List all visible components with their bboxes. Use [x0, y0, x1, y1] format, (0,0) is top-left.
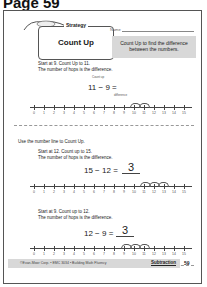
tick-label: 1 — [43, 252, 45, 256]
tick-mark — [134, 105, 135, 110]
tick-label: 3 — [63, 252, 65, 256]
tick-label: 10 — [132, 190, 136, 194]
tick-mark — [184, 105, 185, 110]
tick-mark — [104, 246, 105, 251]
tick-mark — [154, 105, 155, 110]
tick-label: 10 — [132, 111, 136, 115]
tick-mark — [164, 246, 165, 251]
tick-label: 5 — [83, 252, 85, 256]
tick-label: 1 — [43, 111, 45, 115]
tick-mark — [64, 105, 65, 110]
problem-1-instruction-2: The number of hops is the difference. — [38, 155, 112, 161]
tick-label: 11 — [142, 111, 146, 115]
tick-label: 5 — [83, 190, 85, 194]
tick-label: 9 — [123, 252, 125, 256]
copyright: ©Evan-Moor Corp. • EMC 3034 • Building M… — [20, 261, 107, 265]
tick-label: 3 — [63, 111, 65, 115]
tick-mark — [184, 246, 185, 251]
tick-label: 14 — [172, 252, 176, 256]
problem-2-answer[interactable]: 3 — [116, 224, 134, 237]
tick-label: 15 — [182, 252, 186, 256]
problem-1-answer[interactable]: 3 — [122, 161, 140, 174]
tick-label: 5 — [83, 111, 85, 115]
tick-mark — [44, 184, 45, 189]
tick-label: 6 — [93, 252, 95, 256]
tick-label: 15 — [182, 111, 186, 115]
name-field[interactable] — [122, 31, 194, 32]
tick-mark — [34, 246, 35, 251]
tick-mark — [54, 184, 55, 189]
tick-mark — [84, 246, 85, 251]
problem-1-equation: 15 − 12 = — [84, 166, 118, 175]
tick-label: 11 — [142, 190, 146, 194]
tick-mark — [104, 105, 105, 110]
tick-mark — [34, 105, 35, 110]
tick-mark — [124, 105, 125, 110]
tick-label: 2 — [53, 111, 55, 115]
example-instruction-2: The number of hops is the difference. — [38, 67, 112, 73]
tick-mark — [84, 184, 85, 189]
tick-mark — [74, 184, 75, 189]
tick-mark — [54, 105, 55, 110]
tick-label: 13 — [162, 111, 166, 115]
difference-annotation: difference — [114, 93, 127, 97]
tick-label: 10 — [132, 252, 136, 256]
tick-mark — [144, 105, 145, 110]
tick-mark — [144, 184, 145, 189]
number-line-example: 0123456789101112131415 — [30, 104, 192, 118]
tick-mark — [154, 184, 155, 189]
tick-label: 9 — [123, 111, 125, 115]
tick-label: 13 — [162, 190, 166, 194]
tick-label: 9 — [123, 190, 125, 194]
strategy-box: Count Up — [38, 26, 114, 60]
tick-label: 0 — [33, 252, 35, 256]
tick-mark — [44, 105, 45, 110]
tick-label: 4 — [73, 252, 75, 256]
tick-mark — [104, 184, 105, 189]
tick-mark — [114, 184, 115, 189]
tick-mark — [174, 246, 175, 251]
tick-mark — [164, 184, 165, 189]
number-line-problem-2: 0123456789101112131415 — [30, 245, 192, 259]
strategy-title: Count Up — [39, 38, 113, 47]
tick-mark — [114, 246, 115, 251]
tick-mark — [134, 246, 135, 251]
footer-bar: ©Evan-Moor Corp. • EMC 3034 • Building M… — [8, 259, 180, 268]
use-prompt: Use the number line to Count Up. — [18, 139, 85, 144]
tick-label: 7 — [103, 111, 105, 115]
tick-label: 6 — [93, 111, 95, 115]
tick-label: 4 — [73, 190, 75, 194]
tick-mark — [124, 184, 125, 189]
tick-label: 6 — [93, 190, 95, 194]
example-equation: 11 − 9 = — [88, 83, 117, 92]
tick-label: 12 — [152, 190, 156, 194]
tick-mark — [144, 246, 145, 251]
number-line-problem-1: 0123456789101112131415 — [30, 183, 192, 197]
tick-label: 7 — [103, 190, 105, 194]
tick-label: 4 — [73, 111, 75, 115]
tick-mark — [34, 184, 35, 189]
tick-label: 0 — [33, 190, 35, 194]
tick-label: 0 — [33, 111, 35, 115]
tick-label: 1 — [43, 190, 45, 194]
tick-label: 14 — [172, 190, 176, 194]
tick-mark — [174, 184, 175, 189]
divider — [14, 125, 194, 126]
tick-label: 8 — [113, 190, 115, 194]
tick-mark — [174, 105, 175, 110]
tick-mark — [94, 246, 95, 251]
tick-mark — [84, 105, 85, 110]
tick-mark — [74, 246, 75, 251]
tick-mark — [154, 246, 155, 251]
subject-label: Subtraction — [151, 260, 176, 265]
strategy-tip: Count Up to find the difference between … — [112, 36, 196, 58]
tick-label: 2 — [53, 190, 55, 194]
tick-label: 13 — [162, 252, 166, 256]
tick-mark — [44, 246, 45, 251]
tick-mark — [94, 105, 95, 110]
tick-mark — [94, 184, 95, 189]
page-number: 59 — [184, 260, 190, 266]
tick-label: 15 — [182, 190, 186, 194]
tick-label: 8 — [113, 252, 115, 256]
tick-label: 2 — [53, 252, 55, 256]
